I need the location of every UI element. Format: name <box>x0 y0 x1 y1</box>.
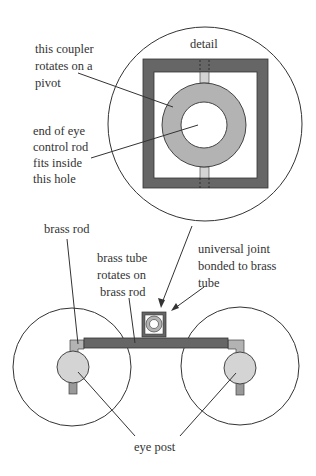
brass-rod-label: brass rod <box>44 222 90 236</box>
right-eye-post <box>224 352 256 384</box>
eye-mechanism-diagram: detail this coupler rotates on a pivot e… <box>0 0 316 476</box>
universal-joint-arrow <box>175 287 204 308</box>
left-eye-post <box>57 351 89 383</box>
pivot-top <box>200 72 209 83</box>
brass-tube <box>84 338 228 348</box>
detail-arrow <box>162 226 192 303</box>
eye-post-leader-right <box>180 373 236 436</box>
detail-title: detail <box>190 37 218 51</box>
eye-post-label: eye post <box>134 440 176 454</box>
brass-tube-leader <box>129 298 135 343</box>
brass-tube-label: brass tube rotates on brass rod <box>97 251 150 299</box>
universal-joint-label: universal joint bonded to brass tube <box>198 242 280 290</box>
coupler-label: this coupler rotates on a pivot <box>35 42 97 90</box>
pivot-bottom <box>200 167 209 178</box>
eye-post-leader-left <box>78 372 135 436</box>
brass-rod-leader <box>67 239 78 344</box>
hole-label: end of eye control rod fits inside this … <box>33 124 91 186</box>
coupler-hole <box>181 102 227 148</box>
